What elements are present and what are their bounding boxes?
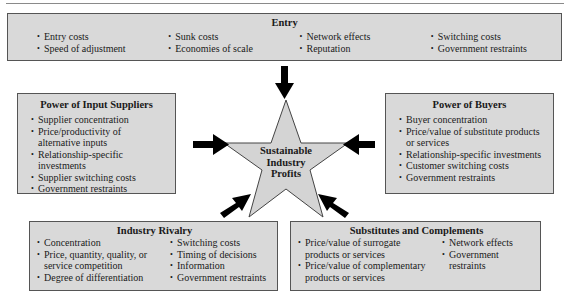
arrow-up-right-icon <box>220 194 251 218</box>
arrow-up-left-icon <box>318 194 349 218</box>
arrows-layer <box>0 0 567 300</box>
arrow-down-icon <box>275 66 294 99</box>
arrow-left-icon <box>343 134 375 155</box>
arrow-right-icon <box>193 134 229 155</box>
